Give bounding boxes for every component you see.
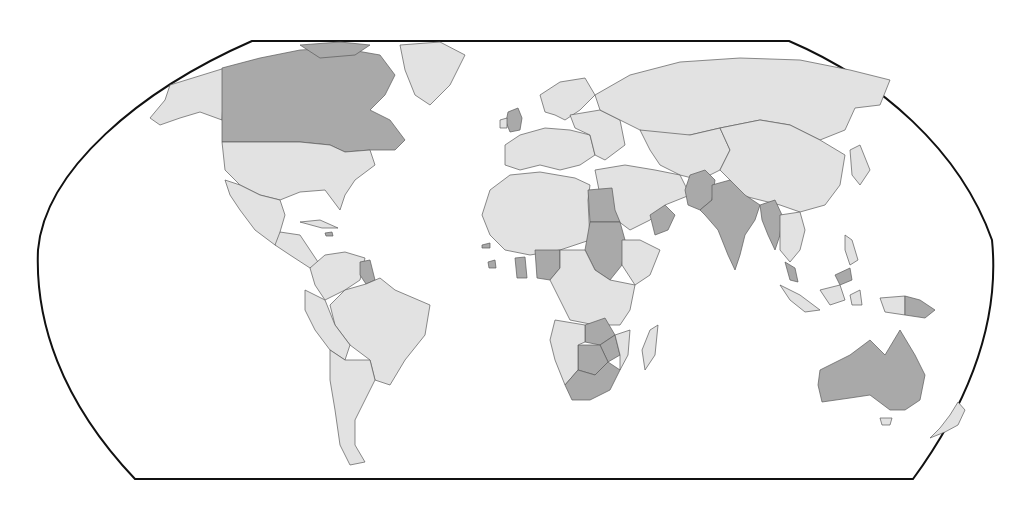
country-ghana[interactable] <box>515 257 527 278</box>
country-tasmania[interactable] <box>880 418 892 425</box>
country-united-kingdom[interactable] <box>506 108 522 132</box>
country-new-zealand[interactable] <box>930 402 965 438</box>
country-alaska[interactable] <box>150 68 225 125</box>
country-greenland[interactable] <box>400 42 465 105</box>
country-gambia-sierra-leone[interactable] <box>482 243 496 268</box>
country-guyana[interactable] <box>360 260 375 284</box>
country-southeast-asia[interactable] <box>780 212 805 262</box>
world-map-svg <box>0 0 1033 505</box>
country-philippines[interactable] <box>845 235 858 265</box>
country-ireland[interactable] <box>500 118 507 128</box>
country-horn-of-africa[interactable] <box>622 240 660 285</box>
country-new-guinea-west[interactable] <box>880 296 905 315</box>
country-madagascar[interactable] <box>642 325 658 370</box>
country-western-europe[interactable] <box>505 128 595 170</box>
country-north-africa[interactable] <box>482 172 590 255</box>
country-central-america[interactable] <box>275 232 320 268</box>
country-australia[interactable] <box>818 330 925 410</box>
country-papua-new-guinea[interactable] <box>905 296 935 318</box>
country-cuba[interactable] <box>300 220 338 228</box>
country-canada[interactable] <box>222 48 405 152</box>
country-japan-korea[interactable] <box>850 145 870 185</box>
country-malaysia[interactable] <box>785 262 852 285</box>
country-indonesia[interactable] <box>780 285 862 312</box>
country-argentina-chile[interactable] <box>330 350 375 465</box>
country-jamaica[interactable] <box>325 232 333 236</box>
world-map <box>0 0 1033 505</box>
country-bangladesh-myanmar[interactable] <box>760 200 782 250</box>
